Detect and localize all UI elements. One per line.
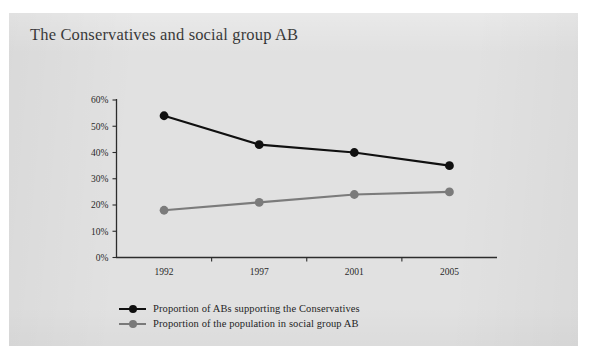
legend-label-secondary: Proportion of the population in social g… [153,318,359,329]
data-point [445,161,454,170]
legend-item-secondary: Proportion of the population in social g… [119,316,539,331]
data-point [160,111,169,120]
y-tick-label: 20% [91,200,109,210]
x-axis-ticks: 1992199720012005 [155,258,460,277]
series-line-secondary [164,192,449,210]
x-tick-label: 1997 [250,267,269,277]
data-point [445,187,454,196]
line-chart: 0%10%20%30%40%50%60% 1992199720012005 [9,13,578,346]
legend-label-primary: Proportion of ABs supporting the Conserv… [153,303,360,314]
legend-item-primary: Proportion of ABs supporting the Conserv… [119,301,539,316]
y-tick-label: 40% [91,148,109,158]
chart-series [164,116,449,211]
y-tick-label: 10% [91,227,109,237]
series-line-primary [164,116,449,166]
chart-axes [116,99,497,258]
slide-panel: The Conservatives and social group AB 0%… [9,13,578,346]
data-point [160,206,169,215]
data-point [350,148,359,157]
data-point [350,190,359,199]
y-tick-label: 50% [91,122,109,132]
x-tick-label: 1992 [155,267,174,277]
data-point [255,140,264,149]
x-tick-label: 2001 [345,267,364,277]
legend-marker-line-dot-icon [119,303,146,314]
legend-marker-line-dot-icon [119,318,146,329]
data-point [255,198,264,207]
y-tick-label: 30% [91,174,109,184]
y-tick-label: 60% [91,95,109,105]
chart-svg: 0%10%20%30%40%50%60% 1992199720012005 [9,13,578,346]
y-tick-label: 0% [96,253,109,263]
x-tick-label: 2005 [440,267,459,277]
chart-legend: Proportion of ABs supporting the Conserv… [119,301,539,331]
y-axis-ticks: 0%10%20%30%40%50%60% [91,95,116,263]
